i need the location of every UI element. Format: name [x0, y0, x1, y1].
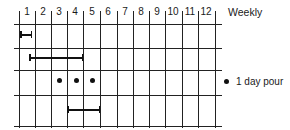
grid-line: [14, 70, 222, 71]
grid-line: [14, 95, 222, 96]
column-label: 1: [19, 6, 35, 17]
pour-dot: [57, 78, 62, 83]
grid-line: [14, 48, 222, 49]
grid-line: [14, 126, 222, 127]
duration-bar: [67, 109, 100, 111]
column-label: 3: [51, 6, 67, 17]
column-label: 11: [182, 6, 198, 17]
column-label: 5: [84, 6, 100, 17]
pour-dot: [74, 78, 79, 83]
dot-icon: [224, 79, 229, 84]
column-label: 4: [67, 6, 83, 17]
column-label: 10: [165, 6, 181, 17]
grid-line: [14, 24, 222, 25]
legend-label: 1 day pour: [236, 76, 283, 87]
column-label: 8: [133, 6, 149, 17]
column-label: 9: [149, 6, 165, 17]
duration-bar: [20, 34, 32, 36]
column-label: 2: [35, 6, 51, 17]
diagram-title: Weekly: [228, 6, 262, 18]
column-label: 12: [198, 6, 214, 17]
column-label: 7: [117, 6, 133, 17]
column-label: 6: [100, 6, 116, 17]
pour-dot: [90, 78, 95, 83]
duration-bar: [29, 57, 83, 59]
legend: 1 day pour: [224, 76, 283, 87]
